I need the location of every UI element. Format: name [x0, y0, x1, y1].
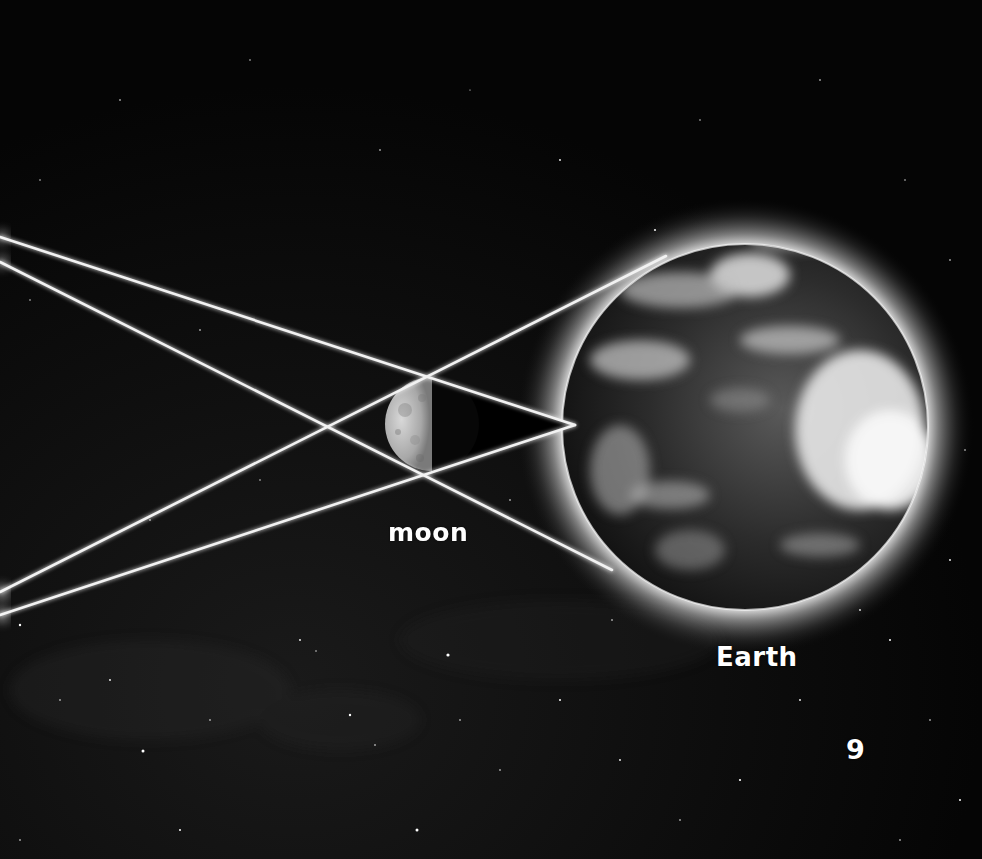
- eclipse-diagram: [0, 0, 982, 859]
- earth: [515, 197, 975, 657]
- moon-label: moon: [388, 518, 468, 547]
- earth-label: Earth: [716, 642, 798, 672]
- page-number: 9: [846, 734, 865, 765]
